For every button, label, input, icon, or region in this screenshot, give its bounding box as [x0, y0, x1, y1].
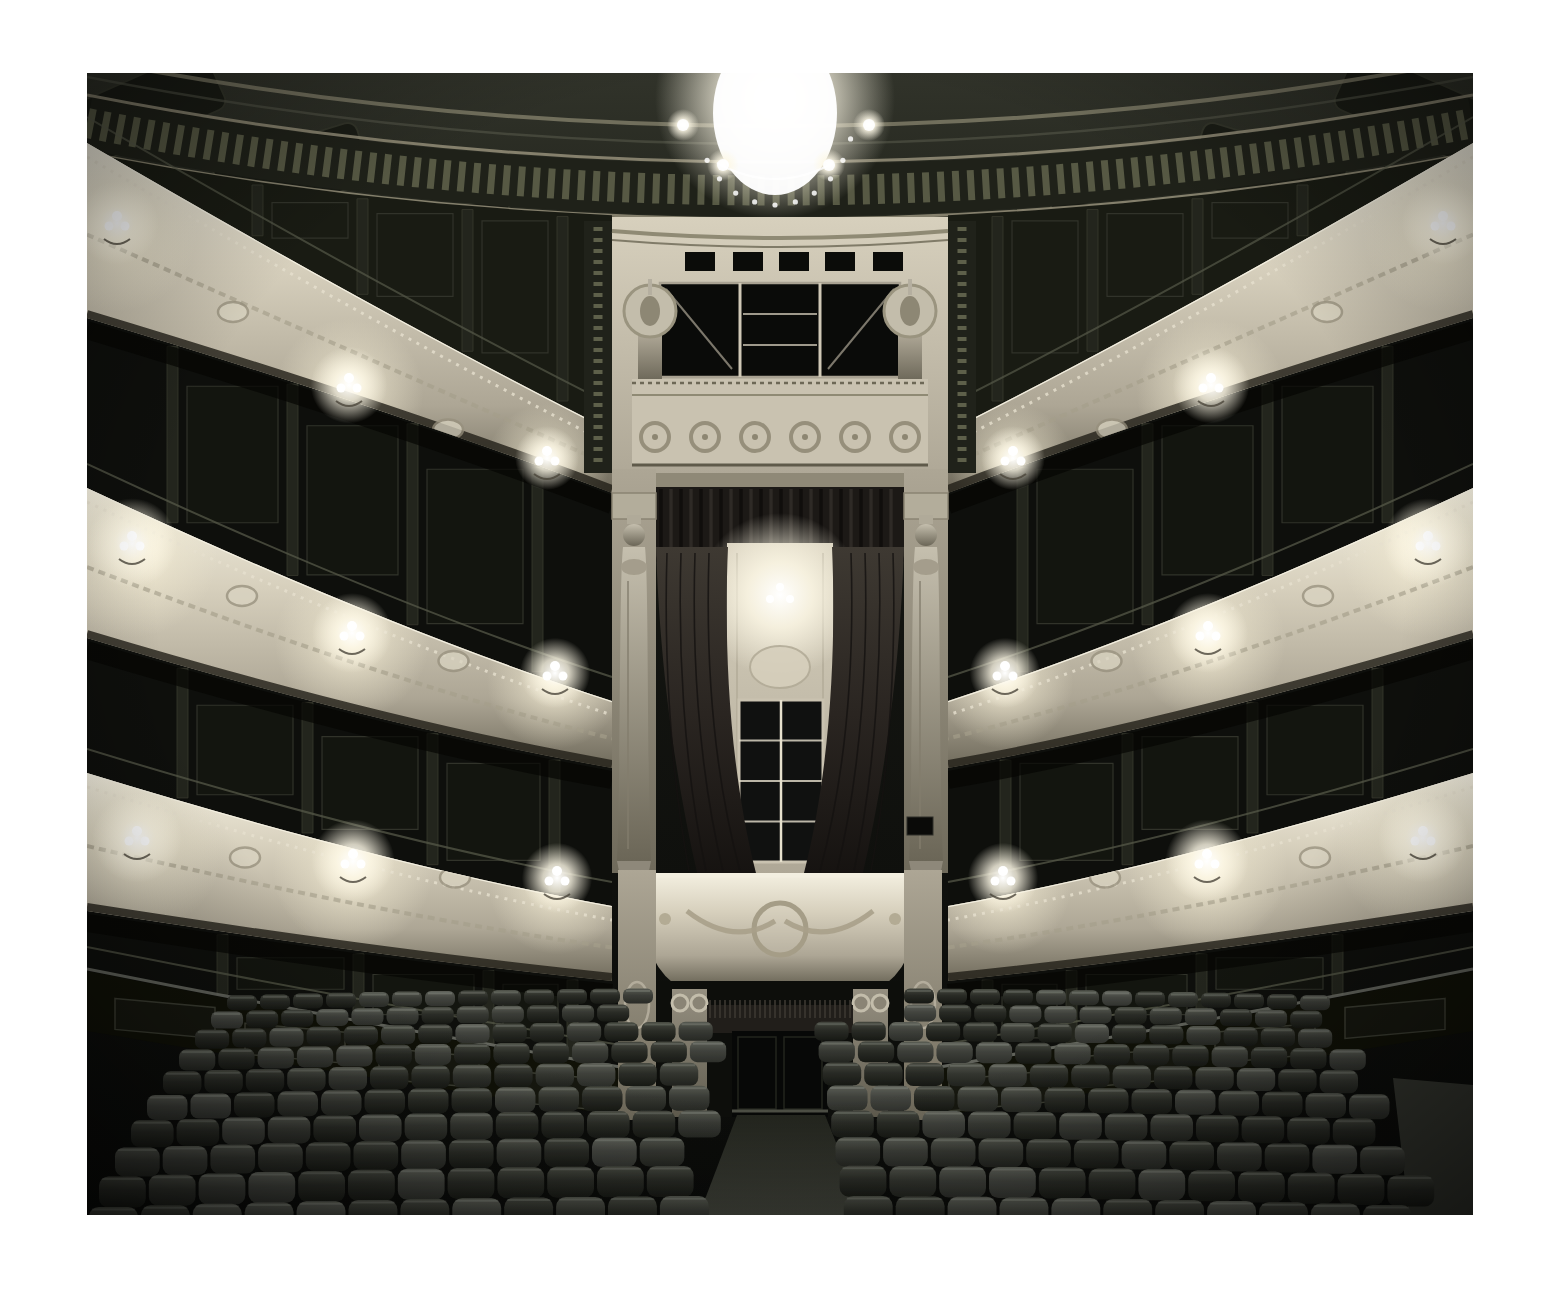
wall-sconce [92, 793, 182, 883]
gilt-border-strip [584, 221, 612, 473]
wall-sconce [87, 498, 177, 588]
wall-sconce [311, 347, 388, 424]
wall-sconce [515, 426, 579, 490]
box-parapet [640, 873, 920, 983]
auditorium-scene [87, 73, 1473, 1215]
caryatid-left [612, 469, 656, 891]
wall-sconce [1383, 498, 1473, 588]
wall-sconce [1168, 593, 1248, 673]
relief-cartouche [750, 646, 810, 688]
book-page [0, 0, 1554, 1292]
wall-sconce [970, 638, 1040, 708]
entrance-door [732, 1031, 828, 1117]
wall-sconce [981, 426, 1045, 490]
wall-sconce [1165, 819, 1248, 902]
wall-sconce [1378, 793, 1468, 883]
balconies-right [904, 117, 1473, 1121]
gilt-border-strip [948, 221, 976, 473]
wall-sconce [312, 593, 392, 673]
balconies-left [87, 117, 656, 1121]
wall-sconce [1173, 347, 1250, 424]
wall-sconce [968, 843, 1038, 913]
opera-house-photo [87, 73, 1473, 1215]
wall-plaque [907, 817, 933, 835]
wall-sconce [522, 843, 592, 913]
wall-sconce [311, 819, 394, 902]
wall-sconce [520, 638, 590, 708]
